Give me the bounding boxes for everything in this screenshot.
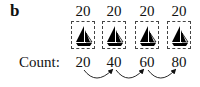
- arrow-icon: [116, 70, 143, 78]
- arrow-icon: [148, 70, 175, 78]
- increment-arrows: [0, 0, 200, 87]
- arrow-icon: [84, 70, 112, 78]
